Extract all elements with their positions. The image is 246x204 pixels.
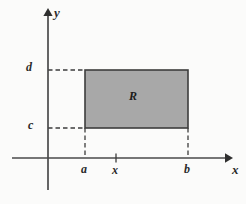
x-axis-label: x bbox=[232, 163, 239, 176]
region-label-R: R bbox=[129, 90, 137, 102]
x-tick-label-a: a bbox=[81, 163, 87, 175]
rectangle-region-diagram: y x d c a x b R bbox=[0, 0, 246, 204]
x-tick-label-b: b bbox=[184, 163, 190, 175]
y-tick-label-d: d bbox=[26, 61, 32, 73]
y-tick-label-c: c bbox=[28, 119, 33, 131]
y-axis-arrowhead bbox=[43, 8, 52, 16]
diagram-canvas bbox=[0, 0, 246, 204]
y-axis-label: y bbox=[54, 6, 60, 19]
x-tick-label-x: x bbox=[112, 164, 118, 176]
